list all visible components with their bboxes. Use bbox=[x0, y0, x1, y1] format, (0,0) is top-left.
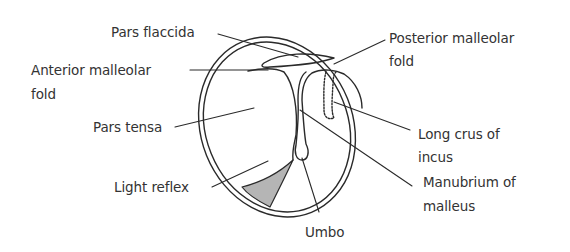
label-manubrium-malleus-line2: malleus bbox=[423, 198, 475, 215]
leader-long-crus-incus bbox=[334, 102, 410, 130]
label-light-reflex: Light reflex bbox=[114, 179, 189, 196]
anterior-fold-curve bbox=[248, 69, 297, 160]
label-pars-flaccida: Pars flaccida bbox=[111, 24, 195, 41]
leader-posterior-malleolar-fold bbox=[334, 40, 385, 64]
label-posterior-malleolar-fold-line1: Posterior malleolar bbox=[389, 30, 514, 47]
pars-flaccida-region bbox=[262, 54, 334, 67]
label-pars-tensa: Pars tensa bbox=[93, 119, 162, 136]
label-posterior-malleolar-fold-line2: fold bbox=[389, 53, 414, 70]
leader-manubrium-malleus bbox=[300, 110, 412, 186]
tympanic-membrane-diagram: Pars flaccida Anterior malleolar fold Pa… bbox=[0, 0, 570, 252]
leader-pars-tensa bbox=[175, 108, 254, 127]
label-manubrium-malleus-line1: Manubrium of bbox=[423, 174, 516, 191]
long-crus-incus-shape bbox=[324, 72, 336, 119]
label-anterior-malleolar-fold-line1: Anterior malleolar bbox=[31, 62, 151, 79]
leader-umbo bbox=[302, 158, 319, 212]
label-long-crus-incus-line2: incus bbox=[418, 149, 453, 166]
label-anterior-malleolar-fold-line2: fold bbox=[31, 86, 56, 103]
label-long-crus-incus-line1: Long crus of bbox=[418, 126, 500, 143]
annulus-inner bbox=[179, 20, 376, 235]
label-umbo: Umbo bbox=[305, 224, 344, 241]
